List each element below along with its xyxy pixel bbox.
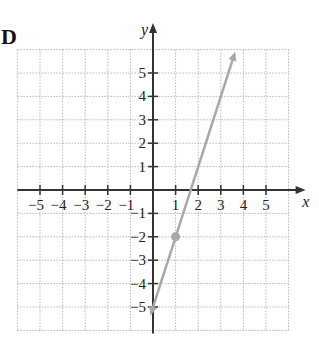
x-tick-label: −5 bbox=[28, 197, 44, 213]
graph-line bbox=[151, 54, 234, 313]
x-tick-label: −2 bbox=[96, 197, 112, 213]
x-tick-label: 5 bbox=[262, 197, 270, 213]
x-tick-label: 3 bbox=[217, 197, 225, 213]
x-axis-label: x bbox=[301, 193, 309, 210]
x-tick-label: 4 bbox=[240, 197, 248, 213]
y-axis-label: y bbox=[139, 21, 149, 39]
y-tick-label: 2 bbox=[139, 135, 147, 151]
y-tick-label: 1 bbox=[139, 159, 147, 175]
x-tick-label: −4 bbox=[51, 197, 67, 213]
y-tick-label: −5 bbox=[130, 299, 146, 315]
coordinate-plane: −5−4−3−2−11234554321−1−2−3−4−5xy bbox=[0, 0, 319, 347]
x-tick-label: −3 bbox=[73, 197, 89, 213]
y-tick-label: −4 bbox=[130, 276, 146, 292]
x-tick-label: 2 bbox=[194, 197, 202, 213]
y-tick-label: 5 bbox=[139, 65, 147, 81]
x-tick-label: 1 bbox=[172, 197, 180, 213]
y-tick-label: −3 bbox=[130, 252, 146, 268]
y-tick-label: −2 bbox=[130, 229, 146, 245]
y-tick-label: −1 bbox=[130, 205, 146, 221]
y-axis-arrow-icon bbox=[149, 23, 157, 33]
line-arrow-up-icon bbox=[229, 52, 237, 62]
plotted-point bbox=[171, 232, 180, 241]
y-tick-label: 3 bbox=[139, 112, 147, 128]
y-tick-label: 4 bbox=[139, 88, 147, 104]
